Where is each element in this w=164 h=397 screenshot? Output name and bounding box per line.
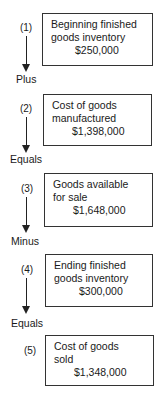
step-amount: $250,000 <box>51 44 152 57</box>
step-label-line: goods inventory <box>54 272 152 285</box>
down-arrow-icon <box>22 197 31 233</box>
down-arrow-icon <box>22 36 31 72</box>
step-number-2: (2) <box>16 103 36 115</box>
operator-plus: Plus <box>16 73 36 85</box>
step-label-line: manufactured <box>52 112 151 125</box>
step-label-line: Beginning finished <box>51 18 152 31</box>
step-label-line: goods inventory <box>51 31 152 44</box>
step-amount: $300,000 <box>54 285 152 298</box>
step-amount: $1,398,000 <box>52 125 151 138</box>
step-amount: $1,648,000 <box>53 204 152 217</box>
step-box-cost-manufactured: Cost of goods manufactured $1,398,000 <box>43 94 152 146</box>
step-amount: $1,348,000 <box>54 366 153 379</box>
down-arrow-icon <box>22 278 31 314</box>
step-label-line: Ending finished <box>54 259 152 272</box>
step-box-cost-of-goods-sold: Cost of goods sold $1,348,000 <box>45 335 154 386</box>
operator-equals: Equals <box>11 317 43 329</box>
step-label-line: for sale <box>53 191 152 204</box>
step-number-5: (5) <box>20 345 40 357</box>
step-label-line: Goods available <box>53 178 152 191</box>
down-arrow-icon <box>22 117 31 153</box>
step-number-4: (4) <box>17 264 37 276</box>
step-number-1: (1) <box>16 22 36 34</box>
step-box-beginning-inventory: Beginning finished goods inventory $250,… <box>42 13 153 66</box>
operator-minus: Minus <box>11 235 39 247</box>
operator-equals: Equals <box>10 153 42 165</box>
step-number-3: (3) <box>17 183 37 195</box>
step-label-line: Cost of goods <box>52 99 151 112</box>
step-label-line: Cost of goods <box>54 340 153 353</box>
step-label-line: sold <box>54 353 153 366</box>
step-box-goods-available: Goods available for sale $1,648,000 <box>44 173 153 227</box>
step-box-ending-inventory: Ending finished goods inventory $300,000 <box>45 254 153 307</box>
